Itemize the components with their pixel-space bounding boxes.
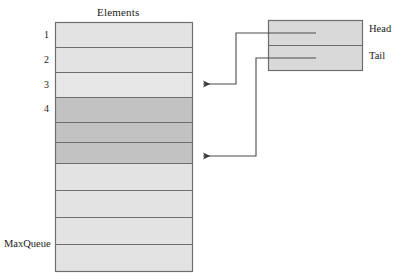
- elements-cell-5: [56, 123, 193, 143]
- pointer-box: [269, 21, 363, 71]
- elements-cell-7: [56, 164, 193, 191]
- row-label-3: 3: [44, 79, 49, 90]
- elements-cell-6: [56, 143, 193, 164]
- tail-label: Tail: [369, 50, 385, 61]
- row-label-4: 4: [44, 103, 49, 114]
- row-label-2: 2: [44, 54, 49, 65]
- row-label-1: 1: [44, 29, 49, 40]
- diagram-vector-layer: [0, 0, 401, 280]
- elements-cell-1: [56, 23, 193, 48]
- elements-title: Elements: [97, 6, 140, 18]
- elements-cell-8: [56, 191, 193, 218]
- elements-cell-9: [56, 218, 193, 245]
- elements-cell-2: [56, 48, 193, 73]
- maxqueue-label: MaxQueue: [4, 238, 51, 249]
- elements-array: [56, 23, 193, 272]
- elements-cell-3: [56, 73, 193, 98]
- head-label: Head: [369, 23, 391, 34]
- elements-cell-4: [56, 98, 193, 123]
- tail-pointer-arrow: [203, 58, 316, 156]
- elements-cell-10: [56, 245, 193, 272]
- diagram-canvas: Elements 1 2 3 4 MaxQueue Head Tail: [0, 0, 401, 280]
